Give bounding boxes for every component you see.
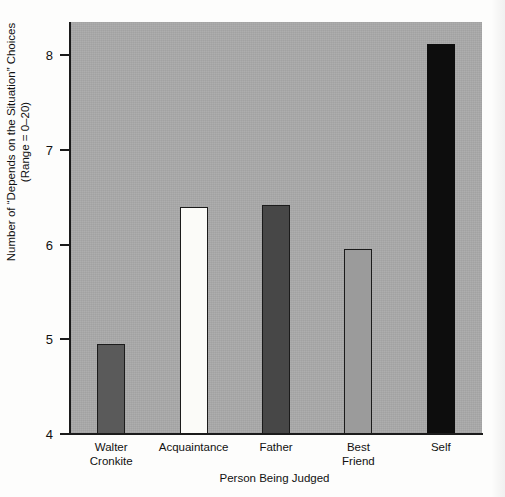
y-axis-title-line: Number of “Depends on the Situation” Cho… [4, 0, 18, 292]
y-axis-tick-label-7: 7 [46, 143, 53, 156]
y-axis-tick-7: 7 [60, 149, 71, 151]
scan-edge-shadow [491, 0, 505, 497]
y-axis-title-line: (Range = 0–20) [18, 0, 32, 292]
y-axis-line [69, 22, 71, 435]
y-axis-tick-8: 8 [60, 54, 71, 56]
x-axis-label-line: Self [381, 440, 501, 454]
bar-self [427, 44, 455, 434]
bar-walter-cronkite [97, 344, 125, 434]
x-axis-title: Person Being Judged [0, 472, 505, 484]
y-axis-title: Number of “Depends on the Situation” Cho… [4, 0, 32, 292]
bar-best-friend [344, 249, 372, 434]
bar-acquaintance [180, 207, 208, 434]
y-axis-tick-label-8: 8 [46, 49, 53, 62]
y-axis-tick-label-6: 6 [46, 238, 53, 251]
x-axis-line [69, 433, 483, 435]
x-axis-label-line: Friend [298, 454, 418, 468]
y-axis-tick-5: 5 [60, 338, 71, 340]
y-axis-tick-label-4: 4 [46, 428, 53, 441]
plot-area [70, 22, 482, 434]
y-axis-tick-6: 6 [60, 244, 71, 246]
y-axis-tick-4: 4 [60, 433, 71, 435]
x-axis-label-line: Cronkite [51, 454, 171, 468]
y-axis-tick-label-5: 5 [46, 333, 53, 346]
bar-father [262, 205, 290, 434]
figure-bar-chart: 45678 Number of “Depends on the Situatio… [0, 0, 505, 497]
x-axis-label-self: Self [381, 440, 501, 454]
